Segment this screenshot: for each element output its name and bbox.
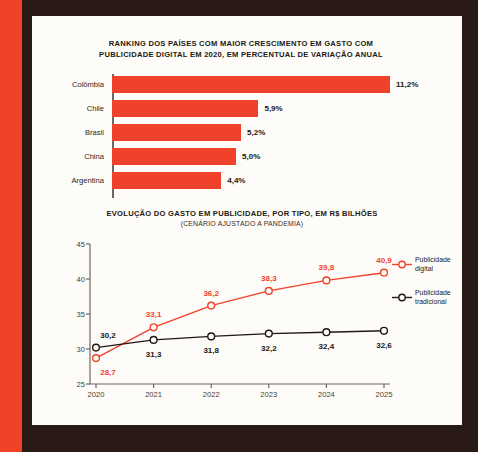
bar-chart-section: RANKING DOS PAÍSES COM MAIOR CRESCIMENTO…: [32, 16, 462, 206]
x-axis-tick-label: 2023: [260, 384, 277, 399]
bar-plot-area: Colômbia11,2%Chile5,9%Brasil5,2%China5,0…: [112, 74, 412, 199]
line-point-value-label: 31,3: [146, 349, 162, 358]
line-point-value-label: 33,1: [146, 310, 162, 319]
bar-category-label: Argentina: [71, 172, 112, 189]
bar-value-label: 4,4%: [227, 172, 245, 189]
bar-category-label: Brasil: [85, 124, 112, 141]
line-point-value-label: 39,8: [319, 263, 335, 272]
right-white-margin: [478, 0, 485, 452]
line-title-subtitle: (CENÁRIO AJUSTADO A PANDEMIA): [72, 219, 412, 229]
line-title-main: EVOLUÇÃO DO GASTO EM PUBLICIDADE, POR TI…: [72, 208, 412, 219]
legend-label: Publicidadedigital: [415, 256, 451, 273]
infographic-page: RANKING DOS PAÍSES COM MAIOR CRESCIMENTO…: [32, 16, 462, 425]
bar-title-line-2: PUBLICIDADE DIGITAL EM 2020, EM PERCENTU…: [76, 49, 406, 60]
line-chart-svg: [90, 244, 390, 384]
y-axis-tick-label: 30: [77, 345, 90, 354]
bar-title-line-1: RANKING DOS PAÍSES COM MAIOR CRESCIMENTO…: [76, 38, 406, 49]
line-point-value-label: 28,7: [100, 368, 116, 377]
line-point-value-label: 30,2: [100, 330, 116, 339]
bar-chart-title: RANKING DOS PAÍSES COM MAIOR CRESCIMENTO…: [76, 38, 406, 61]
line-data-point: [208, 302, 215, 309]
bar-value-label: 5,0%: [242, 148, 260, 165]
line-chart-legend: PublicidadedigitalPublicidadetradicional: [392, 256, 462, 323]
bar-value-label: 11,2%: [396, 76, 418, 93]
line-data-point: [93, 355, 100, 362]
bar-row: Brasil5,2%: [112, 124, 265, 141]
bar-row: Argentina4,4%: [112, 172, 245, 189]
line-point-value-label: 40,9: [376, 255, 392, 264]
line-chart-title: EVOLUÇÃO DO GASTO EM PUBLICIDADE, POR TI…: [72, 208, 412, 230]
legend-marker-circle-icon: [392, 256, 412, 267]
line-point-value-label: 32,2: [261, 343, 277, 352]
bar-fill: [112, 172, 221, 189]
legend-label-line-1: Publicidade: [415, 289, 451, 296]
legend-label: Publicidadetradicional: [415, 289, 451, 306]
bar-value-label: 5,2%: [247, 124, 265, 141]
bar-fill: [112, 148, 236, 165]
bar-fill: [112, 76, 390, 93]
line-point-value-label: 32,6: [376, 340, 392, 349]
line-point-value-label: 32,4: [319, 342, 335, 351]
line-data-point: [323, 277, 330, 284]
y-axis-tick-label: 40: [77, 275, 90, 284]
legend-marker-circle-icon: [392, 289, 412, 300]
y-axis-tick-label: 45: [77, 240, 90, 249]
bar-value-label: 5,9%: [264, 100, 282, 117]
line-point-value-label: 38,3: [261, 273, 277, 282]
line-chart-section: EVOLUÇÃO DO GASTO EM PUBLICIDADE, POR TI…: [32, 204, 462, 425]
x-axis-tick-label: 2021: [145, 384, 162, 399]
bar-category-label: China: [84, 148, 112, 165]
legend-label-line-1: Publicidade: [415, 256, 451, 263]
line-series-path: [96, 273, 384, 358]
line-plot-area: 253035404520202021202220232024202528,733…: [90, 244, 390, 384]
bar-fill: [112, 100, 258, 117]
x-axis-tick-label: 2022: [203, 384, 220, 399]
left-orange-stripe: [0, 0, 22, 452]
bar-row: Colômbia11,2%: [112, 76, 418, 93]
x-axis-tick-label: 2020: [88, 384, 105, 399]
line-data-point: [150, 324, 157, 331]
line-chart-axes: [90, 244, 390, 384]
line-data-point: [265, 288, 272, 295]
legend-label-line-2: digital: [415, 265, 433, 272]
y-axis-tick-label: 35: [77, 310, 90, 319]
bar-row: Chile5,9%: [112, 100, 283, 117]
legend-label-line-2: tradicional: [415, 298, 446, 305]
line-data-point: [208, 333, 215, 340]
line-data-point: [150, 337, 157, 344]
line-data-point: [93, 344, 100, 351]
line-point-value-label: 36,2: [203, 288, 219, 297]
x-axis-tick-label: 2025: [376, 384, 393, 399]
line-data-point: [381, 269, 388, 276]
line-point-value-label: 31,8: [203, 346, 219, 355]
legend-item: Publicidadetradicional: [392, 289, 462, 306]
line-data-point: [323, 329, 330, 336]
bar-category-label: Chile: [87, 100, 112, 117]
bar-row: China5,0%: [112, 148, 260, 165]
legend-item: Publicidadedigital: [392, 256, 462, 273]
x-axis-tick-label: 2024: [318, 384, 335, 399]
line-data-point: [381, 327, 388, 334]
bar-category-label: Colômbia: [72, 76, 112, 93]
line-data-point: [265, 330, 272, 337]
bar-fill: [112, 124, 241, 141]
line-series-path: [96, 331, 384, 348]
